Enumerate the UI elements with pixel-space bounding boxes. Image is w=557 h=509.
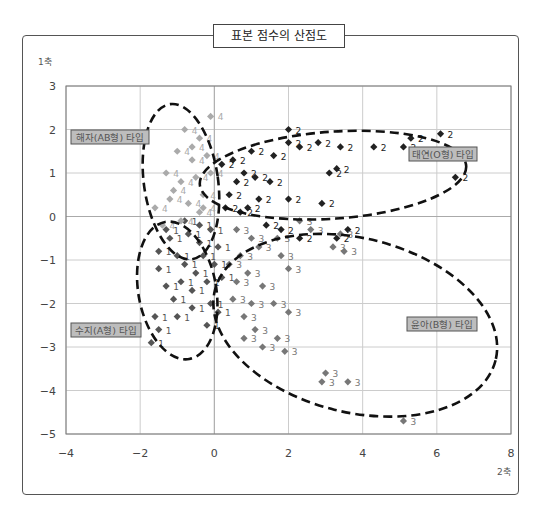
x-tick-label: 2 bbox=[285, 447, 292, 460]
data-point-label: 4 bbox=[199, 143, 205, 153]
data-point-cluster-4 bbox=[181, 126, 188, 133]
data-point-label: 1 bbox=[166, 326, 172, 336]
data-point-label: 2 bbox=[273, 221, 279, 231]
data-point-cluster-3 bbox=[248, 300, 255, 307]
data-point-cluster-2 bbox=[285, 139, 292, 146]
data-point-label: 3 bbox=[296, 308, 302, 318]
data-point-label: 3 bbox=[251, 313, 257, 323]
data-point-cluster-3 bbox=[274, 335, 281, 342]
data-point-cluster-3 bbox=[400, 417, 407, 424]
data-point-label: 1 bbox=[210, 252, 216, 262]
data-point-label: 1 bbox=[162, 313, 168, 323]
data-point-cluster-2 bbox=[370, 143, 377, 150]
data-point-label: 3 bbox=[292, 347, 298, 357]
data-point-label: 2 bbox=[277, 178, 283, 188]
data-point-label: 3 bbox=[251, 334, 257, 344]
data-point-label: 3 bbox=[270, 343, 276, 353]
data-point-label: 2 bbox=[307, 143, 313, 153]
data-point-cluster-2 bbox=[270, 152, 277, 159]
data-point-label: 4 bbox=[188, 217, 194, 227]
data-point-cluster-3 bbox=[240, 335, 247, 342]
data-point-cluster-3 bbox=[240, 313, 247, 320]
x-tick-label: 0 bbox=[211, 447, 218, 460]
data-point-cluster-2 bbox=[318, 200, 325, 207]
data-point-label: 2 bbox=[236, 191, 242, 201]
data-point-label: 2 bbox=[347, 143, 353, 153]
data-point-label: 3 bbox=[270, 282, 276, 292]
data-point-label: 4 bbox=[192, 126, 198, 136]
data-point-cluster-1 bbox=[155, 248, 162, 255]
data-point-cluster-2 bbox=[218, 161, 225, 168]
data-point-cluster-2 bbox=[337, 143, 344, 150]
data-point-label: 2 bbox=[240, 156, 246, 166]
data-point-cluster-3 bbox=[281, 348, 288, 355]
data-point-cluster-3 bbox=[322, 370, 329, 377]
data-point-cluster-3 bbox=[233, 226, 240, 233]
data-point-label: 4 bbox=[210, 204, 216, 214]
data-point-label: 4 bbox=[188, 178, 194, 188]
data-point-cluster-3 bbox=[285, 309, 292, 316]
data-point-label: 3 bbox=[266, 243, 272, 253]
data-point-label: 4 bbox=[210, 191, 216, 201]
x-tick-label: −4 bbox=[58, 447, 74, 460]
cluster-label: 해자(AB형) 타입 bbox=[76, 132, 144, 143]
data-point-cluster-3 bbox=[229, 296, 236, 303]
data-point-label: 3 bbox=[284, 334, 290, 344]
data-point-cluster-2 bbox=[452, 174, 459, 181]
data-point-label: 1 bbox=[177, 234, 183, 244]
data-point-cluster-1 bbox=[203, 322, 210, 329]
data-point-label: 1 bbox=[199, 304, 205, 314]
data-point-cluster-3 bbox=[248, 235, 255, 242]
data-point-label: 1 bbox=[225, 243, 231, 253]
data-point-cluster-1 bbox=[188, 304, 195, 311]
data-point-label: 1 bbox=[173, 282, 179, 292]
x-tick-label: −2 bbox=[132, 447, 148, 460]
data-point-cluster-3 bbox=[277, 252, 284, 259]
data-point-label: 3 bbox=[351, 247, 357, 257]
y-tick-label: −2 bbox=[40, 298, 56, 311]
data-point-label: 1 bbox=[192, 260, 198, 270]
data-point-cluster-3 bbox=[244, 269, 251, 276]
data-point-label: 1 bbox=[199, 286, 205, 296]
data-point-cluster-3 bbox=[307, 226, 314, 233]
y-tick-label: 2 bbox=[49, 124, 56, 137]
y-tick-label: −4 bbox=[40, 385, 56, 398]
data-point-cluster-1 bbox=[188, 287, 195, 294]
data-point-cluster-4 bbox=[196, 135, 203, 142]
cluster-label: 수지(A형) 타입 bbox=[75, 325, 137, 336]
data-point-cluster-2 bbox=[400, 143, 407, 150]
data-point-label: 1 bbox=[225, 308, 231, 318]
data-point-label: 3 bbox=[258, 300, 264, 310]
data-point-cluster-2 bbox=[248, 148, 255, 155]
data-point-cluster-3 bbox=[329, 243, 336, 250]
data-point-cluster-1 bbox=[148, 339, 155, 346]
data-point-label: 2 bbox=[355, 226, 361, 236]
cluster-2-ellipse bbox=[197, 122, 469, 227]
data-point-label: 1 bbox=[184, 313, 190, 323]
data-point-cluster-3 bbox=[285, 265, 292, 272]
data-point-label: 4 bbox=[218, 112, 224, 122]
data-point-label: 4 bbox=[177, 195, 183, 205]
data-point-cluster-2 bbox=[263, 222, 270, 229]
data-point-cluster-1 bbox=[192, 269, 199, 276]
data-point-cluster-3 bbox=[344, 378, 351, 385]
x-axis-label: 2축 bbox=[497, 467, 511, 477]
x-tick-label: 6 bbox=[433, 447, 440, 460]
data-point-label: 2 bbox=[336, 169, 342, 179]
data-point-cluster-4 bbox=[170, 187, 177, 194]
data-point-label: 1 bbox=[203, 269, 209, 279]
data-point-cluster-2 bbox=[437, 130, 444, 137]
data-point-cluster-2 bbox=[315, 139, 322, 146]
data-point-label: 4 bbox=[203, 173, 209, 183]
data-point-label: 2 bbox=[247, 208, 253, 218]
data-point-cluster-3 bbox=[259, 283, 266, 290]
data-point-label: 3 bbox=[288, 252, 294, 262]
data-point-label: 3 bbox=[262, 326, 268, 336]
y-tick-label: −3 bbox=[40, 341, 56, 354]
data-point-label: 1 bbox=[166, 265, 172, 275]
y-tick-label: −5 bbox=[40, 428, 56, 441]
data-point-label: 3 bbox=[240, 295, 246, 305]
data-point-cluster-1 bbox=[181, 261, 188, 268]
data-point-label: 3 bbox=[236, 260, 242, 270]
data-point-label: 2 bbox=[325, 139, 331, 149]
